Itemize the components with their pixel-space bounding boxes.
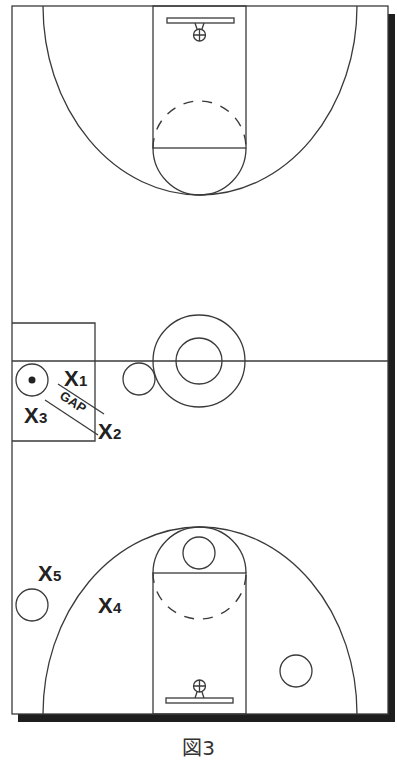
svg-text:1: 1 <box>79 372 87 389</box>
ball-icon <box>29 377 36 384</box>
svg-text:X: X <box>24 403 39 428</box>
offense-player-high-post <box>183 537 215 569</box>
free-throw-circle-top-solid <box>153 148 246 195</box>
free-throw-circle-bottom-dashed <box>153 573 246 619</box>
defender-x2: X 2 <box>98 419 121 444</box>
court-shadow-right <box>388 14 395 722</box>
court-shadow-bottom <box>18 714 395 722</box>
svg-text:4: 4 <box>113 599 122 616</box>
free-throw-circle-bottom-solid <box>153 527 246 573</box>
svg-text:2: 2 <box>113 425 121 442</box>
hoop-top-icon <box>194 29 206 41</box>
backboard-bottom <box>166 698 233 703</box>
svg-text:X: X <box>98 593 113 618</box>
svg-text:X: X <box>64 366 79 391</box>
offense-player-wing <box>123 363 155 395</box>
svg-text:X: X <box>98 419 113 444</box>
lane-top <box>153 6 246 148</box>
svg-text:3: 3 <box>39 409 47 426</box>
svg-text:5: 5 <box>53 567 61 584</box>
offense-player-corner-left <box>16 589 48 621</box>
hoop-bottom-icon <box>194 680 206 692</box>
court-boundary <box>12 6 388 714</box>
rim-connector-top <box>195 23 204 29</box>
figure-caption: 図3 <box>0 738 397 758</box>
offense-player-ball-handler <box>16 364 48 396</box>
svg-text:X: X <box>38 561 53 586</box>
defender-x3: X 3 <box>24 403 47 428</box>
rim-connector-bottom <box>195 692 204 698</box>
defender-x5: X 5 <box>38 561 61 586</box>
defender-x1: X 1 <box>64 366 87 391</box>
free-throw-circle-top-dashed <box>153 101 246 148</box>
lane-bottom <box>153 573 246 714</box>
offense-player-corner-right <box>280 655 312 687</box>
defender-x4: X 4 <box>98 593 122 618</box>
backboard-top <box>167 18 234 23</box>
